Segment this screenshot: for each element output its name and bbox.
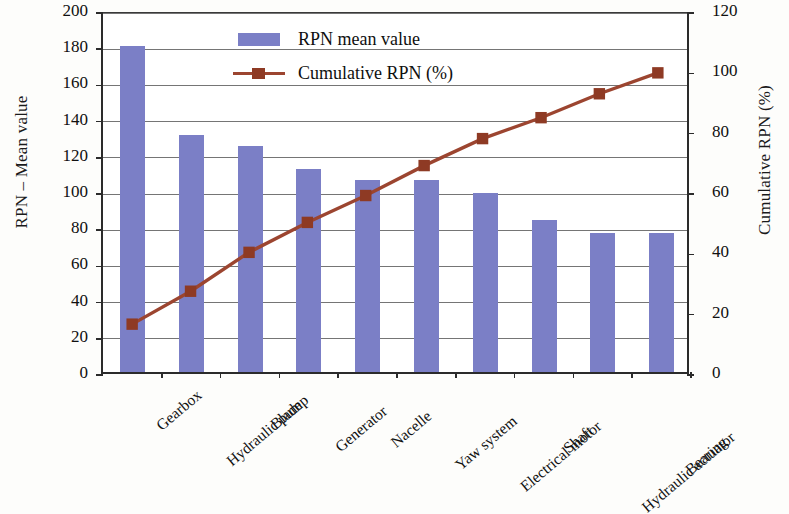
- y-tick-label-right: 20: [712, 303, 756, 323]
- x-category-label: Electrical motor: [517, 417, 605, 495]
- x-axis-category-labels: GearboxHydraulic pumpBladeGeneratorNacel…: [0, 374, 789, 514]
- y-tick-label-left: 140: [44, 110, 88, 130]
- x-category-label: Generator: [332, 402, 391, 456]
- y-tick-label-right: 100: [712, 61, 756, 81]
- tick-mark-left: [96, 266, 103, 268]
- tick-mark-right: [687, 73, 694, 75]
- y-tick-label-left: 20: [44, 327, 88, 347]
- y-tick-label-left: 180: [44, 37, 88, 57]
- tick-mark-left: [96, 48, 103, 50]
- tick-mark-left: [96, 302, 103, 304]
- cumulative-line-marker: [360, 190, 371, 201]
- tick-mark-left: [96, 193, 103, 195]
- pareto-chart: RPN – Mean value Cumulative RPN (%) 0204…: [0, 0, 789, 514]
- y-tick-label-left: 60: [44, 254, 88, 274]
- y-tick-label-right: 80: [712, 122, 756, 142]
- y-tick-label-left: 100: [44, 182, 88, 202]
- y-tick-label-right: 120: [712, 1, 756, 21]
- y-tick-label-right: 40: [712, 242, 756, 262]
- x-category-label: Nacelle: [387, 407, 435, 451]
- cumulative-line-marker: [302, 217, 313, 228]
- y-tick-label-left: 120: [44, 146, 88, 166]
- cumulative-line-marker: [594, 88, 605, 99]
- tick-mark-left: [96, 12, 103, 14]
- tick-mark-right: [687, 12, 694, 14]
- cumulative-line-marker: [652, 67, 663, 78]
- cumulative-line-marker: [243, 247, 254, 258]
- chart-legend: RPN mean value Cumulative RPN (%): [228, 22, 528, 90]
- x-category-label: Yaw system: [452, 412, 521, 474]
- cumulative-line-marker: [185, 286, 196, 297]
- cumulative-line-marker: [477, 133, 488, 144]
- cumulative-line-marker: [126, 318, 137, 329]
- tick-mark-left: [96, 338, 103, 340]
- y-tick-label-left: 200: [44, 1, 88, 21]
- tick-mark-left: [96, 121, 103, 123]
- y-tick-label-left: 40: [44, 291, 88, 311]
- legend-label-line: Cumulative RPN (%): [290, 63, 453, 84]
- tick-mark-left: [96, 157, 103, 159]
- legend-label-bar: RPN mean value: [290, 29, 420, 50]
- x-category-label: Bearing: [681, 433, 730, 478]
- y-tick-label-right: 60: [712, 182, 756, 202]
- line-swatch-icon: [228, 66, 290, 80]
- y-tick-label-left: 160: [44, 73, 88, 93]
- y-tick-label-left: 80: [44, 218, 88, 238]
- cumulative-line-marker: [535, 112, 546, 123]
- tick-mark-right: [687, 254, 694, 256]
- tick-mark-left: [96, 85, 103, 87]
- legend-item-bar: RPN mean value: [228, 22, 528, 56]
- legend-item-line: Cumulative RPN (%): [228, 56, 528, 90]
- tick-mark-right: [687, 133, 694, 135]
- tick-mark-right: [687, 193, 694, 195]
- cumulative-line-path: [132, 73, 658, 324]
- bar-swatch-icon: [228, 33, 290, 46]
- x-category-label: Gearbox: [153, 386, 205, 434]
- cumulative-line-marker: [418, 160, 429, 171]
- tick-mark-right: [687, 314, 694, 316]
- tick-mark-left: [96, 229, 103, 231]
